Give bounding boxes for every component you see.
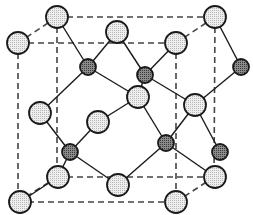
dark-atom bbox=[233, 59, 249, 75]
dark-atom bbox=[158, 135, 174, 151]
light-atom bbox=[87, 111, 109, 133]
light-atom bbox=[204, 6, 226, 28]
light-atom bbox=[165, 191, 187, 213]
atoms-layer bbox=[7, 6, 249, 213]
light-atom bbox=[106, 21, 128, 43]
unit-cell-canvas bbox=[0, 0, 253, 215]
light-atom bbox=[165, 32, 187, 54]
light-atom bbox=[29, 102, 51, 124]
light-atom bbox=[46, 6, 68, 28]
light-atom bbox=[204, 166, 226, 188]
light-atom bbox=[9, 191, 31, 213]
light-atom bbox=[47, 166, 69, 188]
dark-atom bbox=[212, 144, 228, 160]
crystal-structure-diagram: Crystal unit cell (zinc blende / diamond… bbox=[0, 0, 253, 215]
light-atom bbox=[127, 86, 149, 108]
light-atom bbox=[7, 32, 29, 54]
dark-atom bbox=[80, 59, 96, 75]
dark-atom bbox=[137, 67, 153, 83]
dark-atom bbox=[62, 144, 78, 160]
light-atom bbox=[184, 94, 206, 116]
light-atom bbox=[107, 174, 129, 196]
